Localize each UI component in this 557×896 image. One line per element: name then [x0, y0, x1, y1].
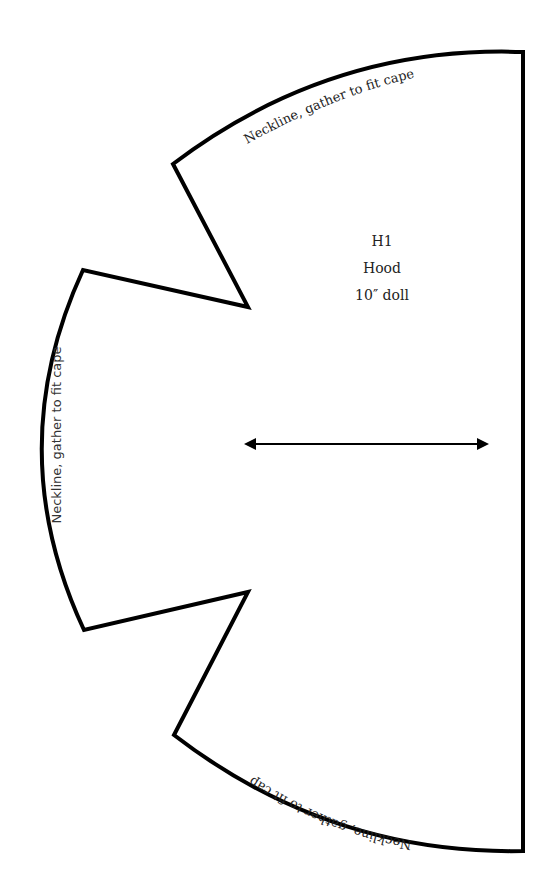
- grainline-arrow-icon: [244, 438, 489, 450]
- piece-name: Hood: [363, 260, 401, 276]
- left-edge-label: Neckline, gather to fit cape: [49, 346, 64, 523]
- hood-pattern-piece: H1 Hood 10″ doll Neckline, gather to fit…: [0, 0, 557, 896]
- piece-size: 10″ doll: [355, 287, 409, 303]
- piece-id: H1: [371, 233, 392, 249]
- pattern-outline: [42, 52, 523, 852]
